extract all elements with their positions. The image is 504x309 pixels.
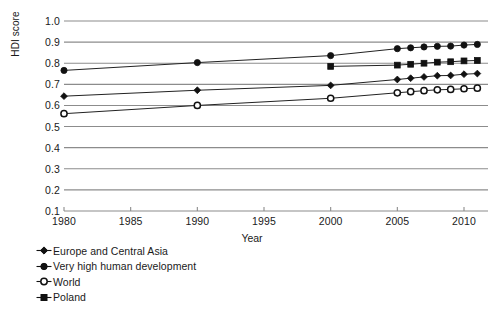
x-axis-tick-label: 2000 [319,215,343,227]
legend-marker-diamond-icon [35,243,53,258]
legend-marker-circle-filled-icon [35,259,53,274]
legend-item-label: Very high human development [53,261,196,272]
x-axis-tick-label: 1980 [52,215,76,227]
legend-marker-circle-open-icon [35,274,53,289]
legend-item[interactable]: Europe and Central Asia [35,243,196,259]
x-axis-tick-label: 1985 [119,215,143,227]
x-axis-tick-label: 2005 [385,215,409,227]
chart-legend: Europe and Central AsiaVery high human d… [35,243,196,305]
legend-item-label: Poland [53,292,86,303]
chart-figure: HDI score 0.10.20.30.40.50.60.70.80.91.0… [0,0,504,309]
legend-item[interactable]: Poland [35,290,196,306]
legend-item[interactable]: Very high human development [35,259,196,275]
x-axis-tick-label: 2010 [452,215,476,227]
x-axis-tick-label: 1990 [185,215,209,227]
legend-item-label: Europe and Central Asia [53,246,168,257]
legend-item-label: World [53,277,80,288]
legend-item[interactable]: World [35,274,196,290]
x-axis-tick-label: 1995 [252,215,276,227]
legend-marker-square-icon [35,290,53,305]
